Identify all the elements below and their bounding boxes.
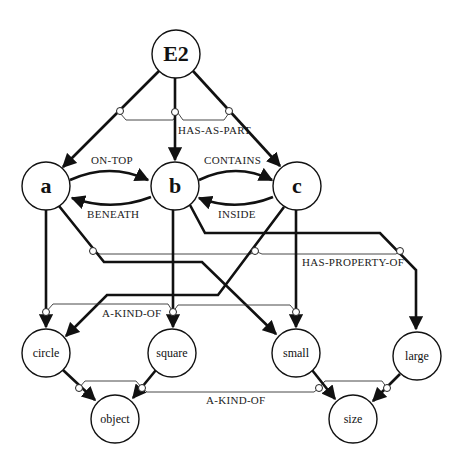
node-a: a bbox=[22, 162, 70, 210]
node-circle-label: circle bbox=[33, 346, 60, 360]
contains-label: CONTAINS bbox=[204, 154, 261, 166]
edge-c-inside-b bbox=[199, 197, 273, 205]
beneath-label: BENEATH bbox=[87, 208, 139, 220]
edge-b-beneath-a bbox=[72, 197, 151, 205]
link-ring bbox=[76, 385, 83, 392]
node-square-label: square bbox=[156, 346, 187, 360]
node-small: small bbox=[272, 329, 320, 377]
a-kind-of-bridge-connector bbox=[142, 388, 319, 392]
link-ring bbox=[172, 109, 179, 116]
link-ring bbox=[139, 385, 146, 392]
node-large: large bbox=[393, 332, 441, 380]
link-ring bbox=[43, 309, 50, 316]
link-ring bbox=[170, 309, 177, 316]
link-ring bbox=[397, 248, 404, 255]
link-ring bbox=[384, 385, 391, 392]
node-large-label: large bbox=[405, 349, 429, 363]
node-square: square bbox=[148, 329, 196, 377]
link-ring bbox=[117, 108, 124, 115]
node-c: c bbox=[273, 162, 321, 210]
edge-a-on-top-b bbox=[70, 171, 148, 180]
node-object: object bbox=[91, 395, 139, 443]
link-ring bbox=[293, 309, 300, 316]
semantic-network-diagram: HAS-AS-PART ON-TOP BENEATH CONTAINS INSI… bbox=[0, 0, 467, 471]
node-size-label: size bbox=[344, 412, 363, 426]
node-small-label: small bbox=[283, 346, 310, 360]
node-e2: E2 bbox=[152, 30, 200, 78]
link-ring bbox=[252, 248, 259, 255]
node-size: size bbox=[329, 395, 377, 443]
edge-a-to-small bbox=[59, 206, 276, 334]
has-property-of-label: HAS-PROPERTY-OF bbox=[302, 256, 404, 268]
edge-c-to-circle bbox=[66, 207, 284, 336]
edge-b-contains-c bbox=[199, 171, 272, 180]
edge-small-to-size bbox=[312, 370, 335, 399]
node-circle: circle bbox=[22, 329, 70, 377]
edge-e2-to-a bbox=[63, 71, 159, 167]
has-as-part-connector-left bbox=[120, 113, 178, 120]
a-kind-of-upper-label: A-KIND-OF bbox=[102, 307, 162, 319]
link-ring bbox=[316, 385, 323, 392]
inside-label: INSIDE bbox=[218, 208, 256, 220]
a-kind-of-upper-connector-right bbox=[173, 305, 296, 312]
has-property-of-connector-right bbox=[255, 251, 400, 254]
node-e2-label: E2 bbox=[163, 41, 189, 66]
node-a-label: a bbox=[41, 173, 52, 198]
node-c-label: c bbox=[292, 173, 302, 198]
a-kind-of-object-connector bbox=[79, 381, 142, 388]
a-kind-of-lower-label: A-KIND-OF bbox=[206, 394, 266, 406]
edge-square-to-object bbox=[133, 370, 156, 398]
on-top-label: ON-TOP bbox=[91, 154, 133, 166]
has-as-part-label: HAS-AS-PART bbox=[178, 124, 251, 136]
link-ring bbox=[90, 248, 97, 255]
node-b: b bbox=[151, 162, 199, 210]
node-b-label: b bbox=[169, 173, 181, 198]
node-object-label: object bbox=[100, 412, 130, 426]
link-ring bbox=[226, 108, 233, 115]
a-kind-of-size-connector bbox=[319, 381, 387, 388]
edge-e2-to-c bbox=[193, 71, 280, 166]
has-as-part-relation: HAS-AS-PART bbox=[120, 113, 251, 136]
has-as-part-connector-right bbox=[178, 113, 229, 120]
